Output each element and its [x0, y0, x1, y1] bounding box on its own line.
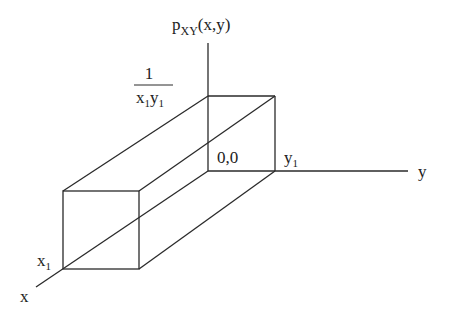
height-denominator: x1y1	[136, 88, 164, 109]
y1-label: y1	[284, 148, 298, 169]
origin-label: 0,0	[217, 148, 238, 167]
z-axis-label: pXY(x,y)	[172, 15, 230, 38]
bottom-right-edge	[139, 171, 275, 269]
x-axis-label: x	[20, 287, 29, 306]
top-left-edge	[63, 96, 208, 191]
height-numerator: 1	[145, 64, 154, 83]
y-axis-label: y	[418, 162, 427, 181]
x1-label: x1	[37, 251, 51, 272]
joint-pdf-diagram: pXY(x,y) 1 x1y1 0,0 y1 y x1 x	[0, 0, 451, 323]
front-face	[63, 191, 139, 269]
top-right-edge	[139, 96, 275, 191]
